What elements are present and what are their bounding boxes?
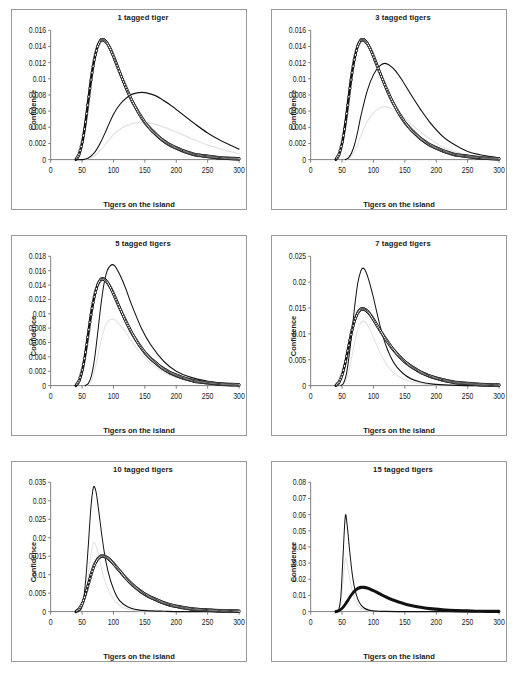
x-tick-label: 50 xyxy=(78,165,86,175)
chart-title: 7 tagged tigers xyxy=(285,239,520,248)
y-tick-label: 0.008 xyxy=(29,90,46,100)
y-tick-label: 0.02 xyxy=(293,277,306,287)
y-tick-label: 0.016 xyxy=(289,26,306,36)
x-tick-label: 200 xyxy=(170,617,182,627)
x-tick-label: 150 xyxy=(139,391,151,401)
x-tick-label: 0 xyxy=(309,165,313,175)
x-tick-label: 0 xyxy=(49,391,53,401)
y-tick-label: 0.002 xyxy=(289,139,306,149)
x-axis-label: Tigers on the island xyxy=(21,200,257,209)
chart-title: 10 tagged tigers xyxy=(25,465,261,474)
x-tick-label: 300 xyxy=(233,391,245,401)
y-tick-label: 0.005 xyxy=(289,355,306,365)
x-tick-label: 100 xyxy=(108,165,120,175)
x-tick-label: 100 xyxy=(108,391,120,401)
x-tick-label: 150 xyxy=(399,165,411,175)
x-tick-label: 250 xyxy=(202,391,214,401)
y-tick-label: 0.016 xyxy=(29,266,46,276)
y-tick-label: 0.016 xyxy=(29,26,46,36)
chart-title: 1 tagged tiger xyxy=(25,13,261,22)
prior-curve xyxy=(336,309,499,386)
scan-ghost-curve xyxy=(85,319,239,385)
chart-panel: 7 tagged tigersConfidenceTigers on the i… xyxy=(260,226,520,452)
x-tick-label: 300 xyxy=(493,165,505,175)
x-tick-label: 200 xyxy=(430,165,442,175)
y-tick-label: 0.012 xyxy=(29,58,46,68)
posterior-curve xyxy=(78,486,239,611)
x-axis-label: Tigers on the island xyxy=(21,426,257,435)
y-tick-label: 0.03 xyxy=(33,496,46,506)
x-tick-label: 250 xyxy=(462,165,474,175)
y-tick-label: 0.05 xyxy=(293,526,306,536)
x-tick-label: 50 xyxy=(338,165,346,175)
y-tick-label: 0 xyxy=(302,607,306,617)
y-tick-label: 0 xyxy=(42,607,46,617)
figure-panel-grid: 1 tagged tigerConfidenceTigers on the is… xyxy=(0,0,520,678)
chart-panel: 15 tagged tigersConfidenceTigers on the … xyxy=(260,452,520,678)
y-tick-label: 0.01 xyxy=(33,309,46,319)
y-tick-label: 0 xyxy=(302,155,306,165)
chart-panel: 3 tagged tigersConfidenceTigers on the i… xyxy=(260,0,520,226)
x-tick-label: 100 xyxy=(368,165,380,175)
y-tick-label: 0.014 xyxy=(289,42,307,52)
y-tick-label: 0.012 xyxy=(289,58,306,68)
scan-ghost-curve xyxy=(337,558,499,611)
x-axis-label: Tigers on the island xyxy=(281,426,517,435)
chart-title: 3 tagged tigers xyxy=(285,13,520,22)
y-tick-label: 0.002 xyxy=(29,366,46,376)
x-tick-label: 200 xyxy=(170,165,182,175)
y-tick-label: 0.012 xyxy=(29,295,46,305)
y-tick-label: 0.014 xyxy=(29,280,47,290)
posterior-curve xyxy=(76,92,239,159)
x-tick-label: 100 xyxy=(368,391,380,401)
x-tick-label: 150 xyxy=(399,391,411,401)
y-tick-label: 0.06 xyxy=(293,510,306,520)
y-tick-label: 0.07 xyxy=(293,494,306,504)
x-tick-label: 0 xyxy=(49,165,53,175)
y-tick-label: 0.006 xyxy=(29,106,46,116)
x-axis-label: Tigers on the island xyxy=(281,652,517,661)
y-tick-label: 0.02 xyxy=(33,533,46,543)
y-tick-label: 0.01 xyxy=(33,74,46,84)
plot-area: 00.0050.010.0150.020.0250501001502002503… xyxy=(271,249,505,410)
y-tick-label: 0.018 xyxy=(29,252,46,262)
posterior-curve xyxy=(337,515,499,612)
x-tick-label: 50 xyxy=(338,617,346,627)
scan-ghost-curve xyxy=(345,107,499,160)
prior-curve xyxy=(336,39,499,159)
y-tick-label: 0.025 xyxy=(289,252,306,262)
posterior-curve xyxy=(345,63,499,159)
y-tick-label: 0.008 xyxy=(289,90,306,100)
plot-area: 00.0020.0040.0060.0080.010.0120.0140.016… xyxy=(11,249,245,410)
x-tick-label: 200 xyxy=(170,391,182,401)
y-tick-label: 0.005 xyxy=(29,588,46,598)
prior-marker-group xyxy=(76,278,240,386)
y-tick-label: 0.02 xyxy=(293,575,306,585)
chart-title: 15 tagged tigers xyxy=(285,465,520,474)
x-axis-label: Tigers on the island xyxy=(21,652,257,661)
x-tick-label: 0 xyxy=(309,391,313,401)
x-tick-label: 150 xyxy=(399,617,411,627)
x-axis-label: Tigers on the island xyxy=(281,200,517,209)
x-tick-label: 50 xyxy=(338,391,346,401)
y-tick-label: 0.002 xyxy=(29,139,46,149)
x-tick-label: 150 xyxy=(139,617,151,627)
x-tick-label: 100 xyxy=(108,617,120,627)
y-tick-label: 0.004 xyxy=(289,123,307,133)
x-tick-label: 200 xyxy=(430,391,442,401)
x-tick-label: 250 xyxy=(202,165,214,175)
plot-area: 00.010.020.030.040.050.060.070.080501001… xyxy=(271,475,505,636)
y-tick-label: 0 xyxy=(42,381,46,391)
x-tick-label: 50 xyxy=(78,391,86,401)
x-tick-label: 250 xyxy=(202,617,214,627)
x-tick-label: 300 xyxy=(493,391,505,401)
prior-curve xyxy=(76,39,239,159)
y-tick-label: 0.01 xyxy=(293,74,306,84)
x-tick-label: 250 xyxy=(462,391,474,401)
plot-area: 00.0020.0040.0060.0080.010.0120.0140.016… xyxy=(11,23,245,184)
y-tick-label: 0.08 xyxy=(293,478,306,488)
x-tick-label: 300 xyxy=(233,165,245,175)
y-tick-label: 0.015 xyxy=(29,551,46,561)
x-tick-label: 150 xyxy=(139,165,151,175)
x-tick-label: 0 xyxy=(309,617,313,627)
